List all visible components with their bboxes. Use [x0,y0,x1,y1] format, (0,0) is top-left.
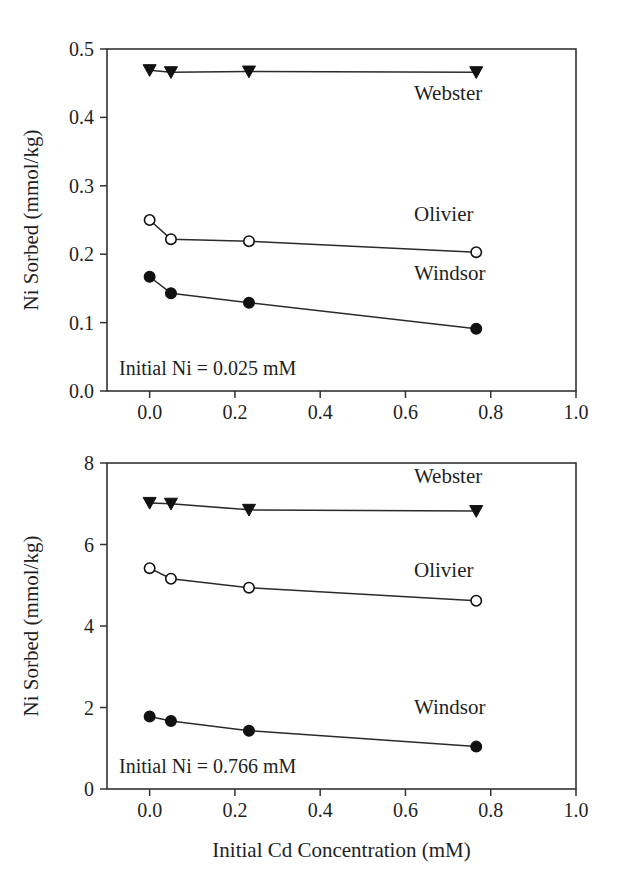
chart-svg-bottom: 0.00.20.40.60.81.002468Ni Sorbed (mmol/k… [0,430,617,874]
marker-windsor [166,288,177,299]
chart-panel-bottom: 0.00.20.40.60.81.002468Ni Sorbed (mmol/k… [0,430,617,874]
y-tick-label: 2 [84,697,94,719]
marker-windsor [166,716,177,727]
y-tick-label: 0.3 [69,175,94,197]
marker-olivier [471,247,481,257]
series-line-webster [150,503,477,511]
series-label-windsor: Windsor [414,695,485,719]
y-tick-label: 0 [84,778,94,800]
marker-windsor [471,323,482,334]
x-tick-label: 0.2 [222,401,247,423]
x-tick-label: 0.0 [137,799,162,821]
chart-panel-top: 0.00.20.40.60.81.00.00.10.20.30.40.5Ni S… [0,0,617,430]
x-tick-label: 0.6 [393,799,418,821]
x-tick-label: 1.0 [564,799,589,821]
x-tick-label: 0.8 [478,401,503,423]
y-axis-title: Ni Sorbed (mmol/kg) [19,536,43,717]
y-tick-label: 0.5 [69,38,94,60]
y-tick-label: 4 [84,615,94,637]
marker-olivier [166,234,176,244]
x-tick-label: 0.2 [222,799,247,821]
plot-frame [107,49,576,391]
plot-frame [107,463,576,789]
y-tick-label: 0.4 [69,106,94,128]
x-tick-label: 0.6 [393,401,418,423]
y-tick-label: 0.2 [69,243,94,265]
x-tick-label: 1.0 [564,401,589,423]
y-tick-label: 0.0 [69,380,94,402]
y-tick-label: 6 [84,534,94,556]
marker-windsor [144,711,155,722]
panel-annotation: Initial Ni = 0.766 mM [119,755,297,777]
x-tick-label: 0.4 [308,401,333,423]
series-label-webster: Webster [414,464,482,488]
marker-olivier [144,215,154,225]
marker-olivier [244,236,254,246]
marker-windsor [244,297,255,308]
x-tick-label: 0.0 [137,401,162,423]
series-line-windsor [150,277,477,329]
x-tick-label: 0.8 [478,799,503,821]
panel-annotation: Initial Ni = 0.025 mM [119,357,297,379]
x-tick-label: 0.4 [308,799,333,821]
marker-olivier [244,582,254,592]
marker-olivier [471,596,481,606]
y-tick-label: 8 [84,452,94,474]
series-label-olivier: Olivier [414,202,473,226]
marker-windsor [144,271,155,282]
marker-windsor [471,741,482,752]
marker-windsor [244,725,255,736]
figure-root: 0.00.20.40.60.81.00.00.10.20.30.40.5Ni S… [0,0,617,874]
chart-svg-top: 0.00.20.40.60.81.00.00.10.20.30.40.5Ni S… [0,0,617,430]
marker-olivier [144,563,154,573]
marker-olivier [166,574,176,584]
series-label-windsor: Windsor [414,261,485,285]
y-tick-label: 0.1 [69,312,94,334]
series-label-olivier: Olivier [414,558,473,582]
series-line-webster [150,70,477,72]
y-axis-title: Ni Sorbed (mmol/kg) [19,130,43,311]
x-axis-title: Initial Cd Concentration (mM) [212,838,470,862]
series-label-webster: Webster [414,81,482,105]
series-line-windsor [150,716,477,746]
